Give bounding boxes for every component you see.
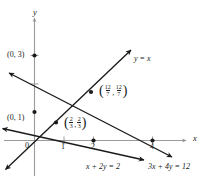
fraction-x-12-7: 12 7 xyxy=(104,84,111,97)
line-y-equals-x xyxy=(6,50,132,170)
origin-label: 0 xyxy=(25,142,29,150)
comma: , xyxy=(112,89,114,97)
paren-close: ) xyxy=(82,119,87,127)
line-x-plus-2y-equals-2 xyxy=(3,129,145,161)
fraction-x-2-3: 2 3 xyxy=(69,116,73,129)
line-label-y-equals-x: y = x xyxy=(134,55,151,63)
line-label-3x-plus-4y: 3x + 4y = 12 xyxy=(148,163,190,171)
paren-close: ) xyxy=(123,87,128,95)
point-label-0-3: (0, 3) xyxy=(7,51,24,59)
point-label-0-1: (0, 1) xyxy=(7,114,24,122)
paren-open: ( xyxy=(99,87,104,95)
line-label-x-plus-2y: x + 2y = 2 xyxy=(86,163,120,171)
x-axis-label: x xyxy=(193,134,197,143)
point-0-3 xyxy=(32,53,36,57)
graph-figure: y x 0 1 2 4 (0, 3) (0, 1) y = x x + 2y =… xyxy=(0,0,207,181)
point-0-1 xyxy=(32,110,36,114)
point-label-12-7: ( 12 7 , 12 7 ) xyxy=(99,84,127,97)
axis-group xyxy=(4,18,186,176)
point-12-7 xyxy=(89,90,93,94)
point-label-2-3: ( 2 3 , 2 3 ) xyxy=(64,116,86,129)
fraction-y-12-7: 12 7 xyxy=(115,84,122,97)
fraction-y-2-3: 2 3 xyxy=(77,116,81,129)
x-tick-label-4: 4 xyxy=(150,143,154,151)
y-axis-label: y xyxy=(33,8,37,17)
comma: , xyxy=(74,121,76,129)
point-2-3 xyxy=(54,120,58,124)
paren-open: ( xyxy=(64,119,69,127)
x-tick-label-1: 1 xyxy=(61,143,65,151)
x-tick-label-2: 2 xyxy=(91,143,95,151)
